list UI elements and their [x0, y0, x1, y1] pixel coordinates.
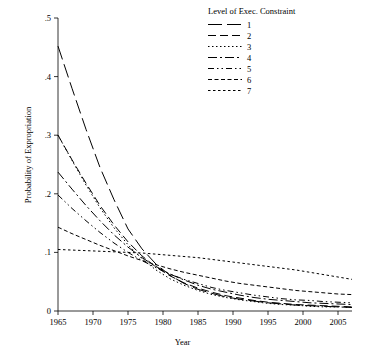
- legend-key-5: [208, 63, 242, 74]
- legend-entry-5: 5: [208, 63, 295, 74]
- y-tick-label: .2: [45, 189, 51, 199]
- x-tick-label: 1980: [155, 317, 172, 327]
- legend-key-6: [208, 74, 242, 85]
- series-line-5: [58, 195, 352, 303]
- legend-key-4: [208, 52, 242, 63]
- legend-entry-1: 1: [208, 19, 295, 30]
- series-line-7: [58, 249, 352, 279]
- x-tick-label: 1995: [260, 317, 277, 327]
- legend-label-3: 3: [247, 42, 251, 52]
- y-tick-label: .4: [45, 72, 52, 82]
- legend-label-4: 4: [247, 53, 251, 63]
- legend-entry-3: 3: [208, 41, 295, 52]
- legend-entries: 1234567: [208, 19, 295, 96]
- legend-label-2: 2: [247, 31, 251, 41]
- legend-label-1: 1: [247, 20, 251, 30]
- legend-key-2: [208, 30, 242, 41]
- x-tick-label: 1985: [190, 317, 207, 327]
- legend-entry-6: 6: [208, 74, 295, 85]
- x-tick-label: 2000: [295, 317, 312, 327]
- legend-label-6: 6: [247, 75, 251, 85]
- y-tick-label: .5: [45, 13, 51, 23]
- legend-key-1: [208, 19, 242, 30]
- series-line-6: [58, 227, 352, 294]
- y-tick-label: .1: [45, 247, 51, 257]
- x-tick-label: 1990: [225, 317, 242, 327]
- plot-area: 0.1.2.3.4.519651970197519801985199019952…: [0, 0, 365, 355]
- series-line-2: [58, 135, 352, 307]
- x-tick-label: 1975: [120, 317, 137, 327]
- legend-key-3: [208, 41, 242, 52]
- series-line-1: [58, 46, 352, 307]
- x-tick-label: 1970: [85, 317, 102, 327]
- legend-entry-4: 4: [208, 52, 295, 63]
- expropriation-probability-chart: 0.1.2.3.4.519651970197519801985199019952…: [0, 0, 365, 355]
- legend-title: Level of Exec. Constraint: [208, 6, 295, 16]
- legend-label-5: 5: [247, 64, 251, 74]
- legend-key-7: [208, 85, 242, 96]
- y-tick-label: .3: [45, 130, 51, 140]
- legend-entry-7: 7: [208, 85, 295, 96]
- x-axis-title: Year: [0, 337, 365, 347]
- legend-label-7: 7: [247, 86, 251, 96]
- x-tick-label: 2005: [330, 317, 347, 327]
- chart-legend: Level of Exec. Constraint 1234567: [208, 6, 295, 96]
- legend-entry-2: 2: [208, 30, 295, 41]
- series-line-3: [58, 135, 352, 307]
- y-tick-label: 0: [47, 306, 51, 316]
- y-axis-title: Probability of Expropriation: [23, 75, 33, 235]
- x-tick-label: 1965: [50, 317, 67, 327]
- series-line-4: [58, 172, 352, 304]
